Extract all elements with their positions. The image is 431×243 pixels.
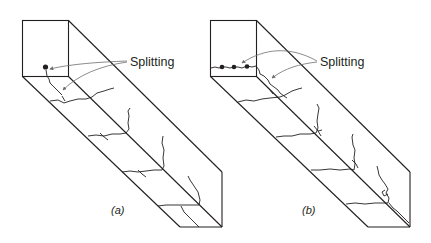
beam-a-bottom-edge <box>23 77 181 228</box>
beam-a-crack-4 <box>122 136 164 172</box>
beam-a-crack-6 <box>181 206 199 227</box>
leader-b-2 <box>272 62 317 78</box>
caption-a: (a) <box>111 204 125 216</box>
beam-b-side-edge <box>257 77 411 228</box>
beam-b-rebar-1 <box>220 65 225 70</box>
beam-b-rebar-2 <box>232 65 237 70</box>
beam-b-bottom-edge <box>211 77 369 228</box>
beam-a <box>23 21 223 228</box>
beam-a-rebar <box>43 64 48 69</box>
beam-a-crack-3 <box>88 108 130 136</box>
beam-a-crack-1 <box>46 70 62 95</box>
beam-b-splitting-crack-side2 <box>257 77 273 94</box>
beam-b-crack-6 <box>389 203 409 223</box>
caption-b: (b) <box>302 204 316 216</box>
beam-b-rebar-3 <box>245 64 250 69</box>
beam-a-top-edge <box>69 21 223 173</box>
splitting-label-a: Splitting <box>130 55 175 69</box>
leader-a-2 <box>63 62 127 90</box>
splitting-label-b: Splitting <box>320 55 365 69</box>
beam-b-splitting-crack-side <box>256 66 287 98</box>
leader-b-1 <box>242 51 317 63</box>
leader-a-1 <box>50 61 127 69</box>
beam-a-crack-5 <box>158 176 200 206</box>
beam-b-top-edge <box>257 21 411 173</box>
splitting-cracks-diagram: Splitting (a) Splitting (b <box>0 0 431 243</box>
beam-a-crack-3b <box>100 133 108 140</box>
beam-b <box>211 21 411 228</box>
